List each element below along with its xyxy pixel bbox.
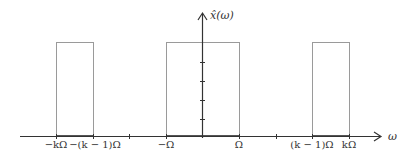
tick-label-omega: Ω — [235, 140, 243, 150]
tick-label-k-omega: kΩ — [342, 140, 356, 150]
tick-label-neg-k-minus-1-omega: −(k − 1)Ω — [69, 140, 121, 150]
tick-label-neg-k-omega: −kΩ — [45, 140, 68, 150]
diagram-canvas — [0, 0, 415, 157]
tick-label-neg-omega: −Ω — [158, 140, 175, 150]
tick-label-k-minus-1-omega: (k − 1)Ω — [290, 140, 333, 150]
right-band-rect — [313, 43, 350, 137]
y-axis-label: x̂(ω) — [210, 10, 234, 21]
x-axis-label: ω — [388, 131, 397, 142]
spectrum-diagram: x̂(ω) ω −kΩ −(k − 1)Ω −Ω Ω (k − 1)Ω kΩ — [0, 0, 415, 157]
left-band-rect — [57, 43, 94, 137]
